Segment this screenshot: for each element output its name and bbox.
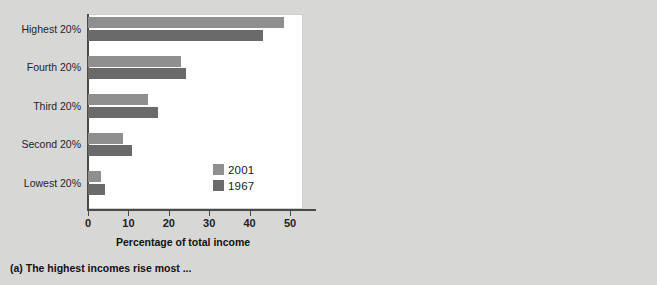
- legend-item-2001: 2001: [213, 163, 254, 176]
- legend-swatch-2001: [213, 164, 224, 175]
- x-tick-label-0: 0: [73, 217, 103, 229]
- x-tick-30: [209, 211, 210, 216]
- x-tick-label-10: 10: [113, 217, 143, 229]
- bar-2001: [88, 56, 181, 67]
- bar-1967: [88, 107, 158, 118]
- category-label: Lowest 20%: [1, 177, 81, 189]
- x-tick-label-40: 40: [235, 217, 265, 229]
- bar-2001: [88, 17, 284, 28]
- bar-1967: [88, 68, 186, 79]
- panel-caption-income: (a) The highest incomes rise most ...: [10, 262, 191, 274]
- bar-2001: [88, 133, 123, 144]
- x-tick-label-30: 30: [194, 217, 224, 229]
- category-label: Third 20%: [1, 100, 81, 112]
- bar-1967: [88, 145, 132, 156]
- category-label: Highest 20%: [1, 23, 81, 35]
- bar-2001: [88, 171, 101, 182]
- x-tick-50: [290, 211, 291, 216]
- x-axis-line-income: [87, 209, 316, 211]
- x-tick-10: [128, 211, 129, 216]
- legend-label: 1967: [228, 180, 254, 192]
- bar-1967: [88, 30, 263, 41]
- legend-label: 2001: [228, 164, 254, 176]
- legend-swatch-1967: [213, 180, 224, 191]
- bar-1967: [88, 184, 105, 195]
- x-tick-0: [88, 211, 89, 216]
- chart-panel-wealth: Top 1%Next 4%Next 5%Next 10%Next 20%Next…: [328, 0, 657, 285]
- x-tick-label-50: 50: [275, 217, 305, 229]
- x-tick-40: [250, 211, 251, 216]
- x-tick-20: [169, 211, 170, 216]
- category-label: Fourth 20%: [1, 61, 81, 73]
- chart-panel-income: Highest 20%Fourth 20%Third 20%Second 20%…: [0, 0, 329, 285]
- bar-2001: [88, 94, 148, 105]
- category-label: Second 20%: [1, 138, 81, 150]
- legend-income: 20011967: [213, 163, 254, 195]
- x-tick-label-20: 20: [154, 217, 184, 229]
- legend-item-1967: 1967: [213, 179, 254, 192]
- x-axis-title-income: Percentage of total income: [116, 236, 250, 248]
- figure-root: Highest 20%Fourth 20%Third 20%Second 20%…: [0, 0, 657, 285]
